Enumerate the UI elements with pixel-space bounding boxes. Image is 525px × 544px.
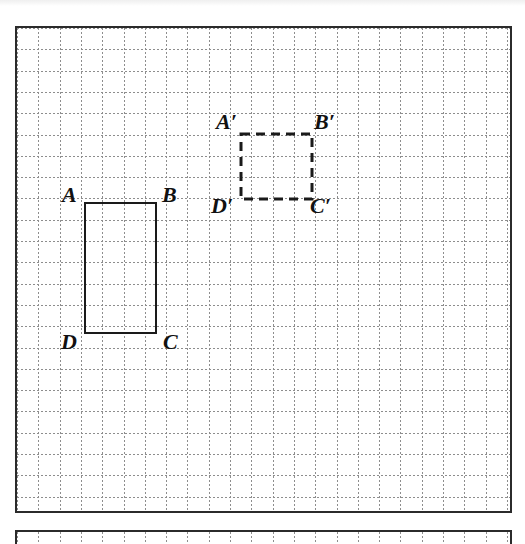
vertex-label-B: B (162, 184, 177, 206)
grid-line-vertical (38, 532, 39, 544)
grid-line-vertical (337, 532, 338, 544)
grid-line-vertical (400, 532, 401, 544)
vertex-labels-layer: ABCDA′B′C′D′ (17, 28, 510, 511)
grid-line-vertical (358, 532, 359, 544)
grid-line-vertical (507, 532, 508, 544)
vertex-label-Ap: A′ (216, 111, 237, 133)
grid-line-vertical (273, 532, 274, 544)
grid-line-vertical (102, 532, 103, 544)
vertex-label-letter: C (310, 193, 325, 218)
grid-line-vertical (315, 532, 316, 544)
grid-line-vertical (187, 532, 188, 544)
vertex-label-Cp: C′ (310, 195, 331, 217)
grid-line-vertical (17, 532, 18, 544)
vertex-label-prime-mark: ′ (325, 193, 331, 218)
vertex-label-prime-mark: ′ (227, 193, 233, 218)
vertex-label-C: C (163, 331, 178, 353)
grid-line-vertical (209, 532, 210, 544)
grid-line-vertical (124, 532, 125, 544)
grid-line-vertical (379, 532, 380, 544)
page-top-edge (0, 0, 525, 6)
vertex-label-prime-mark: ′ (329, 109, 335, 134)
grid-line-vertical (294, 532, 295, 544)
grid-panel: ABCDA′B′C′D′ (15, 26, 512, 513)
vertex-label-A: A (62, 184, 77, 206)
vertex-label-D: D (61, 331, 77, 353)
vertex-label-letter: A (216, 109, 231, 134)
grid-line-vertical (464, 532, 465, 544)
vertex-label-Bp: B′ (314, 111, 335, 133)
vertex-label-letter: C (163, 329, 178, 354)
grid-line-vertical (145, 532, 146, 544)
grid-line-vertical (422, 532, 423, 544)
grid-line-vertical (443, 532, 444, 544)
vertex-label-letter: A (62, 182, 77, 207)
vertex-label-letter: B (162, 182, 177, 207)
vertex-label-letter: D (61, 329, 77, 354)
bottom-panel-fragment (15, 530, 512, 544)
vertex-label-Dp: D′ (211, 195, 233, 217)
grid-line-vertical (60, 532, 61, 544)
grid-line-vertical (230, 532, 231, 544)
grid-line-vertical (166, 532, 167, 544)
grid-line-vertical (81, 532, 82, 544)
vertex-label-prime-mark: ′ (231, 109, 237, 134)
grid-line-vertical (251, 532, 252, 544)
vertex-label-letter: B (314, 109, 329, 134)
bottom-panel-grid-lines (17, 532, 510, 544)
grid-line-vertical (486, 532, 487, 544)
vertex-label-letter: D (211, 193, 227, 218)
